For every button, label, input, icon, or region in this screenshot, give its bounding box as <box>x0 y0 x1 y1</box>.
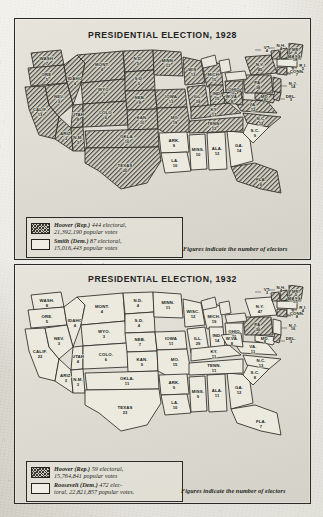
paper-speck <box>187 7 188 8</box>
legend-electoral-hoover: 59 electoral, <box>92 466 123 472</box>
state-electors-pa: 38 <box>256 85 261 90</box>
state-electors-ny: 45 <box>258 67 263 72</box>
state-electors-wis: 13 <box>191 72 196 77</box>
election-map-panel-1932: PRESIDENTIAL ELECTION, 1932 WASH.8ORE.5C… <box>14 264 311 504</box>
state-electors-mich: 19 <box>212 319 217 324</box>
state-electors-ny: 47 <box>258 309 263 314</box>
legend-popular-hoover: 15,764,841 popular votes <box>54 473 118 479</box>
map-svg-1928: WASH.7ORE.5CALIF.13IDAHO4NEV.3MONT.4WYO.… <box>15 43 310 213</box>
state-electors-mo: 15 <box>173 362 178 367</box>
state-electors-mich: 15 <box>212 77 217 82</box>
panel-title-1932: PRESIDENTIAL ELECTION, 1932 <box>15 274 310 284</box>
state-electors-ga: 14 <box>237 148 242 153</box>
legend-row-smith-1928: Smith (Dem.) 87 electoral, 15,016,443 po… <box>31 238 177 253</box>
legend-row-hoover-1932: Hoover (Rep.) 59 electoral, 15,764,841 p… <box>31 466 177 481</box>
state-electors-la: 10 <box>173 405 178 410</box>
legend-popular-smith: 15,016,443 popular votes <box>54 245 118 251</box>
state-electors-tenn: 11 <box>212 368 217 373</box>
great-lake-3 <box>225 71 247 81</box>
panel-title-1928: PRESIDENTIAL ELECTION, 1928 <box>15 30 310 40</box>
legend-row-roosevelt-1932: Roosevelt (Dem.) 472 elec- toral, 22,821… <box>31 482 177 497</box>
state-vt <box>271 292 280 301</box>
legend-swatch-republican <box>31 223 50 234</box>
legend-1928: Hoover (Rep.) 444 electoral, 21,392,190 … <box>26 217 183 258</box>
state-nj <box>273 77 281 93</box>
legend-candidate-hoover: Hoover (Rep.) <box>54 466 90 472</box>
paper-speck <box>220 510 221 511</box>
paper-speck <box>0 146 1 147</box>
state-electors-texas: 23 <box>123 410 128 415</box>
paper-speck <box>321 328 322 329</box>
paper-speck <box>252 261 254 263</box>
legend-swatch-democrat <box>31 483 50 494</box>
paper-speck <box>4 454 5 455</box>
legend-popular-roosevelt: toral, 22,821,857 popular votes. <box>54 489 134 495</box>
state-electors-ky: 11 <box>212 354 217 359</box>
election-map-panel-1928: PRESIDENTIAL ELECTION, 1928 WASH.7ORE.5C… <box>14 18 311 260</box>
state-electors-ill: 29 <box>196 341 201 346</box>
map-note-1928: Figures indicate the number of electors <box>183 245 287 252</box>
state-electors-va: 11 <box>251 349 256 354</box>
state-electors-mass: 18 <box>293 57 298 62</box>
paper-speck <box>321 21 322 22</box>
paper-speck <box>318 274 319 275</box>
state-vt <box>271 50 280 59</box>
legend-swatch-democrat <box>31 239 50 250</box>
legend-electoral-smith: 87 electoral, <box>90 238 121 244</box>
paper-speck <box>3 149 4 150</box>
state-electors-okla: 10 <box>125 139 130 144</box>
legend-row-hoover-1928: Hoover (Rep.) 444 electoral, 21,392,190 … <box>31 222 177 237</box>
state-electors-ind: 15 <box>215 96 220 101</box>
paper-speck <box>315 133 316 134</box>
state-electors-iowa: 11 <box>169 341 174 346</box>
paper-speck <box>9 480 10 481</box>
legend-electoral-roosevelt: 472 elec- <box>99 482 122 488</box>
state-electors-minn: 11 <box>166 305 171 310</box>
state-electors-ga: 12 <box>237 390 242 395</box>
state-electors-ala: 11 <box>215 393 220 398</box>
state-electors-texas: 20 <box>123 168 128 173</box>
paper-speck <box>244 5 246 7</box>
state-electors-ky: 13 <box>212 112 217 117</box>
legend-electoral-hoover: 444 electoral, <box>92 222 127 228</box>
state-electors-okla: 11 <box>125 381 130 386</box>
great-lake-2 <box>219 59 231 73</box>
legend-candidate-roosevelt: Roosevelt (Dem.) <box>54 482 98 488</box>
state-electors-minn: 12 <box>166 63 171 68</box>
great-lake-3 <box>225 313 247 323</box>
paper-speck <box>4 439 6 441</box>
state-electors-kan: 10 <box>140 120 145 125</box>
state-electors-ala: 12 <box>215 151 220 156</box>
state-electors-ind: 14 <box>215 338 220 343</box>
map-1928: WASH.7ORE.5CALIF.13IDAHO4NEV.3MONT.4WYO.… <box>15 43 310 213</box>
state-electors-nc: 12 <box>259 121 264 126</box>
legend-popular-hoover: 21,392,190 popular votes <box>54 229 118 235</box>
state-electors-mo: 18 <box>173 120 178 125</box>
map-1932: WASH.8ORE.5CALIF.22IDAHO4NEV.3MONT.4WYO.… <box>15 285 310 455</box>
map-note-1932: Figures indicate the number of electors <box>181 487 285 494</box>
state-electors-va: 12 <box>251 107 256 112</box>
paper-speck <box>210 10 212 12</box>
legend-candidate-smith: Smith (Dem.) <box>54 238 88 244</box>
state-electors-nj: 16 <box>291 326 296 331</box>
state-electors-la: 10 <box>173 163 178 168</box>
state-electors-mass: 17 <box>293 299 298 304</box>
legend-1932: Hoover (Rep.) 59 electoral, 15,764,841 p… <box>26 461 183 502</box>
state-electors-nc: 13 <box>259 363 264 368</box>
state-electors-calif: 13 <box>38 112 43 117</box>
state-electors-pa: 36 <box>256 327 261 332</box>
legend-swatch-republican <box>31 467 50 478</box>
great-lake-2 <box>219 301 231 315</box>
paper-speck <box>3 121 4 122</box>
state-electors-calif: 22 <box>38 354 43 359</box>
legend-candidate-hoover: Hoover (Rep.) <box>54 222 90 228</box>
map-svg-1932: WASH.8ORE.5CALIF.22IDAHO4NEV.3MONT.4WYO.… <box>15 285 310 455</box>
state-electors-iowa: 13 <box>169 99 174 104</box>
state-electors-miss: 10 <box>196 152 201 157</box>
state-electors-tenn: 12 <box>212 126 217 131</box>
state-nj <box>273 319 281 335</box>
state-electors-ill: 29 <box>196 99 201 104</box>
state-electors-nj: 14 <box>291 84 296 89</box>
state-electors-wisc: 12 <box>191 314 196 319</box>
